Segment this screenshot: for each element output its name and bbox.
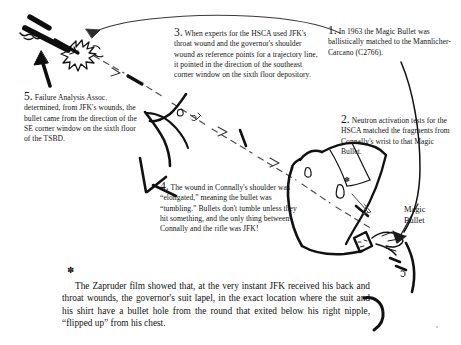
note-5-number: 5. xyxy=(24,90,33,103)
magic-bullet-label-line2: Bullet xyxy=(404,216,425,227)
diagram-page: 3. When experts for the HSCA used JFK's … xyxy=(0,0,461,345)
note-4-number: 4. xyxy=(160,180,169,193)
up-arrow xyxy=(34,51,50,86)
annotation-note-2: 2. Neutron activation tests for the HSCA… xyxy=(341,115,453,157)
annotation-note-3: 3. When experts for the HSCA used JFK's … xyxy=(174,28,322,80)
asterisk-marker-footnote: ✽ xyxy=(67,266,74,275)
magic-bullet-label-line1: Magic xyxy=(404,205,425,216)
note-2-number: 2. xyxy=(341,113,350,126)
rifle-drawing xyxy=(20,17,103,71)
footnote-text: The Zapruder film showed that, at the ve… xyxy=(62,281,370,328)
note-5-text: Failure Analysis Assoc. determined, from… xyxy=(24,93,137,143)
note-2-text: Neutron activation tests for the HSCA ma… xyxy=(341,116,450,156)
note-3-text: When experts for the HSCA used JFK's thr… xyxy=(174,29,318,79)
note-1-number: 1. xyxy=(328,24,337,37)
note-1-text: In 1963 the Magic Bullet was ballistical… xyxy=(328,27,451,57)
annotation-note-4: 4. The wound in Connally's shoulder was … xyxy=(160,182,298,234)
asterisk-marker-arm: ✽ xyxy=(344,177,350,184)
footnote-paragraph: The Zapruder film showed that, at the ve… xyxy=(62,280,370,330)
note-3-number: 3. xyxy=(174,26,183,39)
magic-bullet-label: Magic Bullet xyxy=(404,205,425,226)
annotation-note-1: 1. In 1963 the Magic Bullet was ballisti… xyxy=(328,26,452,58)
annotation-note-5: 5. Failure Analysis Assoc. determined, f… xyxy=(24,92,144,144)
note-4-text: The wound in Connally's shoulder was “el… xyxy=(160,183,297,233)
